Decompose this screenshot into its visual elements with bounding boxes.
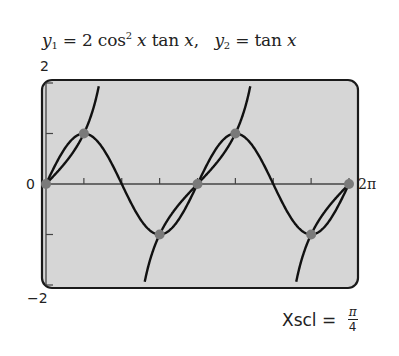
xscl-fraction: π 4 bbox=[348, 306, 358, 333]
intersection-point bbox=[79, 129, 89, 139]
intersection-point bbox=[230, 129, 240, 139]
intersection-point bbox=[41, 179, 51, 189]
xscl-annotation: Xscl = π 4 bbox=[282, 306, 358, 333]
intersection-point bbox=[306, 230, 316, 240]
intersection-point bbox=[155, 230, 165, 240]
intersection-point bbox=[193, 179, 203, 189]
graph-screen bbox=[0, 0, 399, 356]
xscl-numerator: π bbox=[348, 306, 358, 320]
xscl-denominator: 4 bbox=[349, 320, 357, 333]
intersection-point bbox=[344, 179, 354, 189]
xscl-text: Xscl = bbox=[282, 310, 342, 330]
